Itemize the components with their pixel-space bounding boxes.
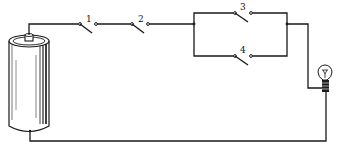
wire-parallel-upper-left <box>194 13 234 24</box>
switch-3[interactable]: 3 <box>234 2 253 22</box>
switch-2[interactable]: 2 <box>131 14 150 33</box>
wire-parallel-lower-right <box>251 24 287 56</box>
wire-parallel-lower-left <box>194 24 234 56</box>
battery-bottom-contact <box>29 130 31 132</box>
wire-bulb-to-battery <box>30 92 326 141</box>
switch-1-label: 1 <box>86 14 92 24</box>
switch-3-label: 3 <box>240 2 246 12</box>
circuit-diagram: 1 2 3 4 <box>0 0 339 150</box>
switch-4-label: 4 <box>240 45 246 55</box>
switch-2-label: 2 <box>138 14 144 24</box>
battery <box>9 34 49 132</box>
wire-battery-to-switch-1 <box>29 24 79 35</box>
wire-parallel-upper-right <box>251 13 287 24</box>
switch-4[interactable]: 4 <box>234 45 253 65</box>
wire-junction-to-bulb <box>287 24 322 88</box>
switch-1[interactable]: 1 <box>79 14 98 33</box>
